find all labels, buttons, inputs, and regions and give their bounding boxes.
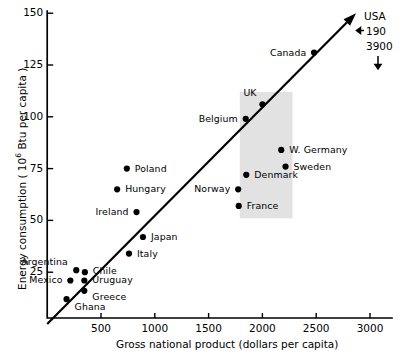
data-point-greece (81, 288, 87, 294)
point-label-italy: Italy (137, 248, 158, 259)
point-label-canada: Canada (270, 47, 306, 58)
usa-energy-value: 3900 (366, 40, 393, 52)
point-label-chile: Chile (93, 265, 117, 276)
point-label-denmark: Denmark (254, 169, 298, 180)
y-axis-title: Energy consumption ( 106 Btu per capita … (14, 68, 28, 290)
data-point-w-germany (278, 147, 284, 153)
data-point-ghana (63, 296, 69, 302)
data-point-hungary (114, 186, 120, 192)
x-tick-label-500: 500 (87, 322, 115, 334)
data-point-belgium (243, 116, 249, 122)
data-point-ireland (133, 209, 139, 215)
usa-gnp-value: 190 (366, 25, 386, 37)
x-axis-title: Gross national product (dollars per capi… (116, 338, 338, 350)
usa-gnp-left-arrow-icon (357, 28, 365, 34)
data-point-uk (259, 101, 265, 107)
y-axis-title-suffix: Btu per capita ) (16, 68, 28, 153)
point-label-ghana: Ghana (75, 301, 106, 312)
data-point-italy (126, 250, 132, 256)
data-point-argentina (73, 267, 79, 273)
point-label-belgium: Belgium (199, 113, 238, 124)
y-axis-title-exponent: 6 (14, 153, 23, 158)
x-tick-label-1000: 1000 (141, 322, 169, 334)
data-point-mexico (67, 277, 73, 283)
scatter-chart: GhanaMexicoGreeceUruguayArgentinaChileIt… (0, 0, 407, 360)
data-point-poland (124, 166, 130, 172)
data-point-denmark (243, 172, 249, 178)
x-tick-label-3000: 3000 (356, 322, 384, 334)
data-point-japan (140, 234, 146, 240)
data-point-uruguay (81, 277, 87, 283)
y-axis-title-prefix: Energy consumption ( 10 (16, 158, 28, 290)
point-label-sweden: Sweden (294, 161, 332, 172)
data-point-canada (311, 49, 317, 55)
point-label-uk: UK (243, 87, 256, 98)
point-label-hungary: Hungary (125, 183, 166, 194)
point-label-japan: Japan (151, 231, 178, 242)
point-label-norway: Norway (194, 183, 230, 194)
plot-area (0, 0, 407, 360)
usa-energy-down-arrow-icon (375, 56, 381, 69)
point-label-greece: Greece (92, 291, 126, 302)
x-tick-label-2000: 2000 (248, 322, 276, 334)
point-label-ireland: Ireland (96, 206, 129, 217)
x-tick-label-2500: 2500 (302, 322, 330, 334)
point-label-w-germany: W. Germany (289, 144, 347, 155)
x-tick-label-1500: 1500 (195, 322, 223, 334)
data-point-france (236, 203, 242, 209)
y-tick-label-150: 150 (0, 6, 43, 18)
data-point-chile (82, 269, 88, 275)
usa-label: USA (364, 10, 386, 22)
point-label-poland: Poland (135, 163, 167, 174)
data-point-norway (235, 186, 241, 192)
point-label-france: France (247, 200, 279, 211)
